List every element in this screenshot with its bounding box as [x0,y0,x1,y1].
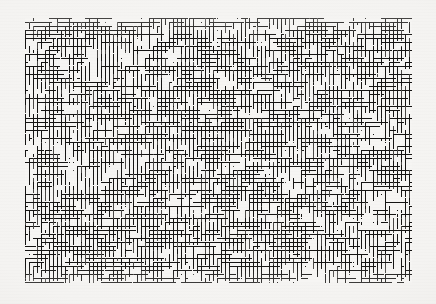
artboard [0,0,436,304]
maze-texture-canvas [25,18,412,283]
pattern-field [25,18,412,283]
